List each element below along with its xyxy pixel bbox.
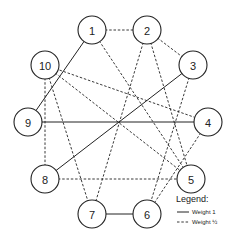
node-9: 9 (14, 108, 42, 136)
node-label: 4 (205, 117, 211, 129)
node-2: 2 (133, 16, 161, 44)
node-1: 1 (78, 16, 106, 44)
edge-2-5 (147, 30, 191, 179)
node-7: 7 (78, 200, 106, 228)
node-label: 5 (188, 174, 194, 186)
node-label: 9 (25, 117, 31, 129)
node-10: 10 (31, 51, 59, 79)
graph-diagram: 12345678910 Legend: Weight 1 Weight ½ (0, 0, 231, 242)
node-label: 3 (190, 60, 196, 72)
node-label: 1 (89, 25, 95, 37)
node-4: 4 (194, 108, 222, 136)
legend: Legend: Weight 1 Weight ½ (176, 194, 217, 225)
node-label: 6 (144, 209, 150, 221)
legend-label-weight-half: Weight ½ (192, 219, 217, 225)
node-6: 6 (133, 200, 161, 228)
node-label: 7 (89, 209, 95, 221)
node-5: 5 (177, 165, 205, 193)
node-label: 10 (39, 60, 51, 72)
node-3: 3 (179, 51, 207, 79)
legend-label-weight-1: Weight 1 (192, 209, 216, 215)
node-label: 2 (144, 25, 150, 37)
legend-title: Legend: (176, 194, 209, 204)
node-8: 8 (31, 165, 59, 193)
node-label: 8 (42, 174, 48, 186)
